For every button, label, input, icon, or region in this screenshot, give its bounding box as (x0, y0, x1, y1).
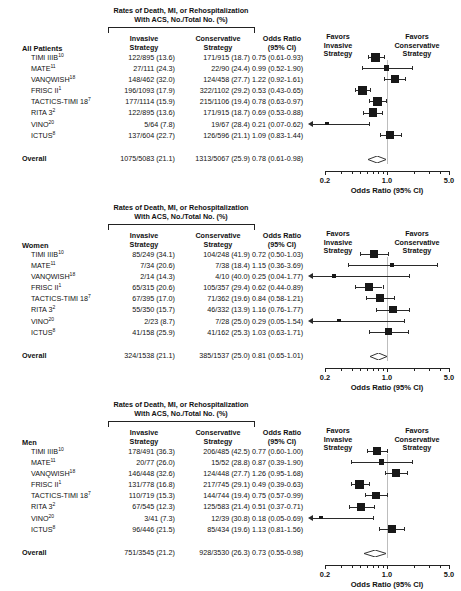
study-name: RITA 32 (31, 502, 55, 511)
ci-cap (437, 263, 438, 267)
overall-invasive-value: 1075/5083 (21.1) (107, 154, 175, 163)
overall-row: Overall751/3545 (21.2)928/3530 (26.3)0.7… (0, 548, 305, 559)
odds-ratio-value: 1.22 (0.92-1.61) (252, 75, 312, 84)
table-row: MATE1127/111 (24.3)22/90 (24.4)0.99 (0.5… (0, 64, 305, 75)
x-axis-minor-tick (378, 171, 379, 174)
x-axis-minor-tick (352, 171, 353, 174)
odds-ratio-value: 0.51 (0.37-0.71) (252, 502, 312, 511)
effect-size-marker (386, 131, 394, 139)
table-row: FRISC II1196/1093 (17.9)322/1102 (29.2)0… (0, 86, 305, 97)
table-row: TACTICS-TIMI 187177/1114 (15.9)215/1106 … (0, 97, 305, 108)
x-axis-minor-tick (414, 565, 415, 568)
table-row: ICTUS8137/604 (22.7)126/596 (21.1)1.09 (… (0, 131, 305, 142)
study-reference: 2 (52, 304, 55, 310)
study-name: MATE11 (31, 458, 56, 467)
invasive-value: 110/719 (15.3) (107, 491, 175, 500)
conservative-value: 215/1106 (19.4) (178, 97, 250, 106)
effect-size-marker (369, 108, 377, 116)
effect-size-marker (325, 122, 329, 126)
ci-left-arrow (308, 515, 313, 521)
study-reference: 8 (53, 129, 56, 135)
column-header-odds-ratio: Odds Ratio(95% CI) (255, 429, 309, 446)
odds-ratio-value: 0.49 (0.39-0.63) (252, 480, 312, 489)
invasive-value: 5/64 (7.8) (107, 120, 175, 129)
study-reference: 18 (70, 468, 76, 474)
ci-cap (367, 449, 368, 453)
conservative-value: 171/915 (18.7) (178, 53, 250, 62)
x-axis-minor-tick (429, 565, 430, 568)
study-reference: 18 (70, 74, 76, 80)
x-axis-minor-tick (367, 171, 368, 174)
x-axis-tick (449, 171, 450, 175)
invasive-value: 96/446 (21.5) (107, 525, 175, 534)
table-row: RITA 32122/895 (13.6)171/915 (18.7)0.69 … (0, 108, 305, 119)
x-axis-title: Odds Ratio (95% CI) (325, 580, 449, 589)
x-axis-minor-tick (341, 565, 342, 568)
odds-ratio-value: 1.15 (0.36-3.69) (252, 261, 312, 270)
x-axis-minor-tick (414, 171, 415, 174)
table-row: VINO202/23 (8.7)7/28 (25.0)0.29 (0.05-1.… (0, 317, 305, 328)
ci-left-arrow (308, 121, 313, 127)
table-row: VANQWISH18146/448 (32.6)124/448 (27.7)1.… (0, 469, 305, 480)
odds-ratio-value: 1.09 (0.83-1.44) (252, 131, 312, 140)
ci-cap (373, 516, 374, 520)
ci-cap (409, 274, 410, 278)
x-axis-minor-tick (360, 171, 361, 174)
table-row: VANQWISH18148/462 (32.0)124/458 (27.7)1.… (0, 75, 305, 86)
conservative-value: 125/583 (21.4) (178, 502, 250, 511)
invasive-value: 146/448 (32.6) (107, 469, 175, 478)
ci-cap (380, 133, 381, 137)
overall-odds-ratio-value: 0.73 (0.55-0.98) (252, 548, 312, 557)
ci-cap (407, 471, 408, 475)
effect-size-marker (385, 328, 392, 335)
effect-size-marker (390, 263, 394, 267)
effect-size-marker (379, 459, 385, 465)
overall-invasive-value: 751/3545 (21.2) (107, 548, 175, 557)
table-row: VANQWISH182/14 (14.3)4/10 (40.0)0.25 (0.… (0, 272, 305, 283)
invasive-value: 67/545 (12.3) (107, 502, 175, 511)
ci-cap (369, 482, 370, 486)
study-name: TIMI IIIB10 (31, 447, 64, 456)
study-reference: 2 (52, 107, 55, 113)
ci-cap (363, 111, 364, 115)
ci-cap (368, 55, 369, 59)
favors-invasive-label: FavorsInvasiveStrategy (303, 230, 373, 256)
x-axis-tick (449, 565, 450, 569)
conservative-value: 85/434 (19.6) (178, 525, 250, 534)
ci-cap (405, 77, 406, 81)
table-row: TIMI IIIB1085/249 (34.1)104/248 (41.9)0.… (0, 250, 305, 261)
table-header-title: Rates of Death, MI, or Rehospitalization… (101, 7, 261, 24)
ci-cap (349, 505, 350, 509)
x-axis-tick (449, 368, 450, 372)
ci-cap (366, 296, 367, 300)
effect-size-marker (332, 274, 336, 278)
conservative-value: 41/162 (25.3) (178, 328, 250, 337)
effect-size-marker (388, 525, 396, 533)
ci-cap (412, 66, 413, 70)
panel-men: Rates of Death, MI, or Rehospitalization… (0, 394, 461, 591)
invasive-value: 122/895 (13.6) (107, 53, 175, 62)
x-axis-tick-label: 0.2 (320, 570, 330, 579)
overall-label: Overall (22, 548, 46, 557)
conservative-value: 126/596 (21.1) (178, 131, 250, 140)
ci-cap (394, 296, 395, 300)
table-row: VINO205/64 (7.8)19/67 (28.4)0.21 (0.07-0… (0, 120, 305, 131)
ci-cap (384, 77, 385, 81)
column-header-invasive: InvasiveStrategy (113, 429, 175, 446)
ci-left-arrow (308, 273, 313, 279)
study-name: VINO20 (31, 317, 54, 326)
x-axis-minor-tick (383, 565, 384, 568)
x-axis-minor-tick (378, 565, 379, 568)
ci-cap (401, 133, 402, 137)
study-name: TACTICS-TIMI 187 (31, 491, 91, 500)
x-axis-minor-tick (360, 368, 361, 371)
x-axis-minor-tick (440, 171, 441, 174)
ci-cap (408, 330, 409, 334)
invasive-value: 7/34 (20.6) (107, 261, 175, 270)
effect-size-marker (358, 86, 367, 95)
conservative-value: 124/458 (27.7) (178, 75, 250, 84)
table-row: TACTICS-TIMI 18767/395 (17.0)71/362 (19.… (0, 294, 305, 305)
study-reference: 1 (59, 282, 62, 288)
table-row: FRISC II165/315 (20.6)105/357 (29.4)0.62… (0, 283, 305, 294)
table-row: FRISC II1131/778 (16.8)217/745 (29.1)0.4… (0, 480, 305, 491)
